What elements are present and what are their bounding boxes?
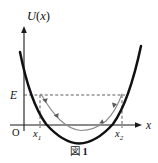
x1-tick-label: x1 <box>32 128 41 142</box>
caption-label: 図 <box>70 146 81 157</box>
motion-arrow-upper-left <box>42 98 48 103</box>
motion-arrows-group <box>42 98 117 123</box>
x-axis-label: x <box>145 119 152 131</box>
motion-arrow-lower-right <box>99 119 104 123</box>
y-axis-arrowhead <box>21 26 27 33</box>
potential-energy-plot: U(x) x O E x1 x2 <box>0 0 158 163</box>
caption-number: 1 <box>82 146 88 157</box>
figure-caption: 図1 <box>0 143 158 158</box>
y-axis-label: U(x) <box>27 9 50 23</box>
potential-energy-figure: U(x) x O E x1 x2 図1 <box>0 0 158 163</box>
energy-level-label: E <box>9 89 17 101</box>
axes-group <box>10 26 142 131</box>
origin-label: O <box>12 127 20 138</box>
x2-tick-label: x2 <box>114 128 124 142</box>
x-axis-arrowhead <box>135 122 142 127</box>
